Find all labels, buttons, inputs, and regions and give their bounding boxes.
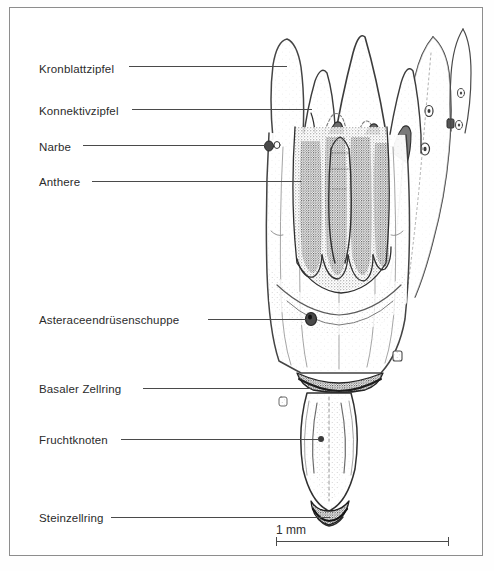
label-text-anthere: Anthere — [39, 177, 80, 189]
leader-line-anthere — [92, 181, 301, 182]
leader-line-kronblattzipfel — [129, 66, 287, 67]
leader-line-fruchtknoten — [121, 439, 319, 440]
leader-line-konnektivzipfel — [132, 109, 312, 110]
scale-bar-line — [276, 541, 449, 542]
leader-line-basaler-zellring — [143, 388, 312, 389]
floret-illustration — [10, 8, 484, 557]
scale-bar-caption: 1 mm — [276, 523, 306, 537]
leader-line-steinzellring — [111, 517, 330, 518]
label-text-narbe: Narbe — [39, 142, 71, 154]
label-text-basaler-zellring: Basaler Zellring — [39, 384, 121, 396]
label-text-fruchtknoten: Fruchtknoten — [39, 435, 108, 447]
scale-bar-tick-left — [276, 537, 277, 546]
leader-line-asteraceendruesenschuppe — [208, 319, 307, 320]
figure-frame: Kronblattzipfel Konnektivzipfel Narbe An… — [9, 7, 483, 556]
scale-bar-tick-right — [448, 537, 449, 546]
label-text-konnektivzipfel: Konnektivzipfel — [39, 106, 119, 118]
label-text-asteraceendruesenschuppe: Asteraceendrüsenschuppe — [39, 315, 179, 327]
leader-line-narbe — [83, 145, 273, 146]
label-text-kronblattzipfel: Kronblattzipfel — [39, 64, 114, 76]
label-text-steinzellring: Steinzellring — [39, 513, 104, 525]
